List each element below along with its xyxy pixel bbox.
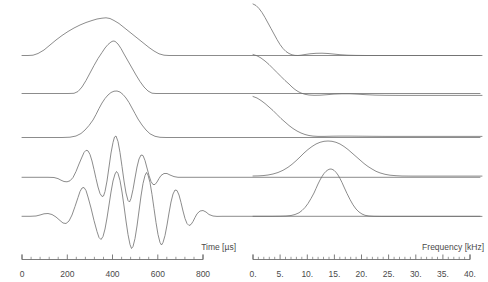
signal-spectrum-figure: 0 200 400 600 800 Time [µs]: [0, 0, 488, 282]
right-tick-label-35: 35.: [437, 269, 449, 279]
right-tick-label-0: 0.: [249, 269, 256, 279]
spectrum-1-lowpass-decay: [253, 4, 482, 56]
frequency-axis-label: Frequency [kHz]: [422, 242, 484, 252]
right-tick-label-15: 15.: [328, 269, 340, 279]
left-tick-label-0: 0: [20, 269, 25, 279]
left-tick-label-800: 800: [196, 269, 210, 279]
trace-4-short-wave-packet: [22, 136, 480, 202]
trace-1-trapezoid-pulse: [22, 18, 480, 56]
spectrum-3-lowpass-decay: [253, 97, 482, 137]
right-tick-label-25: 25.: [383, 269, 395, 279]
right-frequency-axis: 0. 5. 10. 15. 20. 25. 30. 35. 40. Freque…: [249, 242, 484, 279]
right-tick-label-5: 5.: [277, 269, 284, 279]
right-panel-frequency-domain: [253, 4, 482, 216]
right-tick-label-10: 10.: [301, 269, 313, 279]
spectrum-2-lowpass-decay: [253, 55, 482, 96]
left-tick-label-200: 200: [60, 269, 74, 279]
trace-3-gaussian-pulse: [22, 91, 480, 138]
right-tick-label-30: 30.: [410, 269, 422, 279]
left-tick-label-600: 600: [151, 269, 165, 279]
trace-5-long-wave-packet: [22, 172, 480, 249]
left-panel-time-domain: [22, 18, 480, 249]
figure-canvas: 0 200 400 600 800 Time [µs]: [0, 0, 488, 282]
left-tick-label-400: 400: [105, 269, 119, 279]
right-tick-label-40: 40.: [464, 269, 476, 279]
left-time-axis: 0 200 400 600 800 Time [µs]: [20, 242, 236, 279]
right-tick-label-20: 20.: [356, 269, 368, 279]
spectrum-4-broad-peak: [253, 141, 482, 176]
trace-2-narrow-triangle-pulse: [22, 41, 480, 94]
time-axis-label: Time [µs]: [201, 242, 236, 252]
